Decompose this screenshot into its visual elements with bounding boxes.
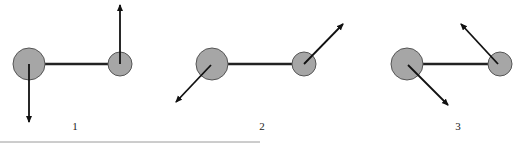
mode-label: 1 — [72, 120, 78, 132]
small-atom — [488, 52, 512, 76]
mode-label: 3 — [455, 120, 461, 132]
small-atom-displacement-arrow-icon — [304, 24, 343, 64]
mode-panel-2 — [176, 24, 343, 102]
large-atom-displacement-arrow-icon — [408, 65, 448, 105]
mode-panel-1 — [13, 5, 132, 122]
small-atom-displacement-arrow-icon — [461, 24, 498, 64]
mode-label: 2 — [259, 120, 265, 132]
large-atom-displacement-arrow-icon — [176, 65, 211, 102]
mode-panel-3 — [391, 24, 512, 105]
